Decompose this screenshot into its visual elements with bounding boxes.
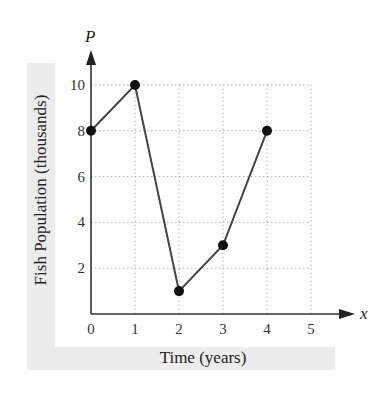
data-point-marker	[262, 126, 272, 136]
x-axis-symbol: x	[359, 304, 368, 323]
data-point-marker	[130, 80, 140, 90]
data-point-marker	[174, 286, 184, 296]
data-point-marker	[218, 240, 228, 250]
y-tick-label: 8	[78, 123, 86, 139]
x-tick-label: 1	[131, 321, 139, 337]
x-axis-arrow-icon	[339, 309, 355, 319]
data-series	[86, 80, 272, 296]
line-chart: P x 012345 246810	[0, 0, 384, 395]
x-tick-label: 4	[263, 321, 271, 337]
x-tick-labels: 012345	[87, 321, 315, 337]
x-tick-label: 3	[219, 321, 227, 337]
x-tick-label: 5	[307, 321, 315, 337]
series-line	[91, 85, 267, 291]
y-tick-label: 2	[78, 260, 86, 276]
y-tick-label: 10	[70, 77, 85, 93]
y-tick-label: 6	[78, 169, 86, 185]
y-axis-symbol: P	[84, 27, 95, 46]
x-tick-label: 2	[175, 321, 183, 337]
y-axis-arrow-icon	[86, 50, 96, 65]
data-point-marker	[86, 126, 96, 136]
axes: P x	[84, 27, 368, 323]
grid-lines	[91, 85, 311, 314]
y-tick-label: 4	[78, 214, 86, 230]
x-tick-label: 0	[87, 321, 95, 337]
y-tick-labels: 246810	[70, 77, 86, 276]
